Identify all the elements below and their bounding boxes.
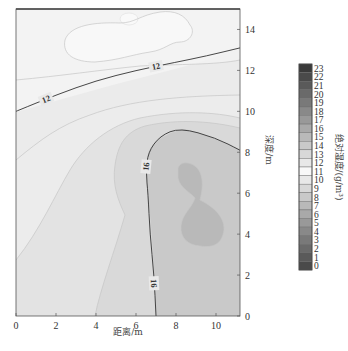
colorbar-swatch: [299, 73, 312, 82]
colorbar-swatch: [299, 150, 312, 159]
colorbar-swatch: [299, 64, 312, 73]
contour-fills: [16, 9, 240, 316]
contour-label: 16: [149, 279, 159, 288]
x-tick-label: 2: [54, 320, 59, 331]
colorbar-swatch: [299, 210, 312, 219]
y-tick-label: 14: [245, 24, 255, 35]
x-axis-label: 距离/m: [113, 326, 143, 337]
colorbar-swatch: [299, 176, 312, 185]
colorbar-swatch: [299, 193, 312, 202]
colorbar-swatch: [299, 116, 312, 125]
colorbar-swatch: [299, 167, 312, 176]
y-tick-label: 4: [245, 229, 250, 240]
y-tick-label: 8: [245, 147, 250, 158]
colorbar-swatch: [299, 141, 312, 150]
y-tick-label: 0: [245, 311, 250, 322]
y-tick-label: 6: [245, 188, 250, 199]
x-tick-label: 4: [94, 320, 99, 331]
colorbar-label: 绝对湿度/(g/m³): [334, 134, 345, 201]
x-tick-label: 8: [174, 320, 179, 331]
colorbar-swatch: [299, 184, 312, 193]
colorbar: 23222120191817161514131211109876543210: [299, 64, 324, 271]
colorbar-swatch: [299, 244, 312, 253]
colorbar-swatch: [299, 98, 312, 107]
colorbar-swatch: [299, 261, 312, 270]
colorbar-swatch: [299, 81, 312, 90]
colorbar-swatch: [299, 124, 312, 133]
colorbar-swatch: [299, 107, 312, 116]
colorbar-swatch: [299, 158, 312, 167]
colorbar-swatch: [299, 253, 312, 262]
colorbar-swatch: [299, 227, 312, 236]
contour-chart: 12121616 0246810 02468101214 距离/m 深度/m 2…: [0, 0, 348, 351]
y-tick-label: 2: [245, 270, 250, 281]
x-tick-label: 10: [211, 320, 221, 331]
colorbar-swatch: [299, 219, 312, 228]
x-tick-label: 0: [14, 320, 19, 331]
colorbar-swatch: [299, 236, 312, 245]
colorbar-tick-label: 0: [314, 261, 319, 271]
y-axis-label: 深度/m: [264, 135, 275, 165]
colorbar-swatch: [299, 201, 312, 210]
contour-label: 16: [141, 162, 152, 171]
colorbar-swatch: [299, 90, 312, 99]
y-tick-label: 10: [245, 106, 255, 117]
colorbar-swatch: [299, 133, 312, 142]
y-tick-label: 12: [245, 65, 255, 76]
